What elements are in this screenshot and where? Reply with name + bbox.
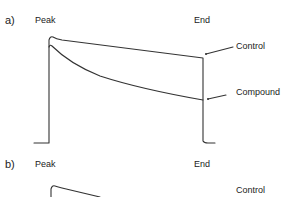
panel-a-compound-arrow	[208, 95, 226, 99]
traces-svg	[0, 0, 305, 197]
panel-a-control-trace	[34, 37, 215, 143]
panel-a-control-arrow	[206, 47, 233, 54]
panel-a-compound-arrowhead	[207, 98, 209, 100]
panel-a-control-arrowhead	[205, 53, 207, 55]
panel-b-control-trace	[51, 186, 100, 197]
panel-a-compound-trace	[49, 45, 203, 100]
